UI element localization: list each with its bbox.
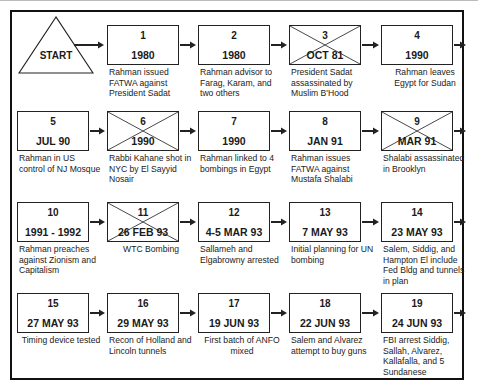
event-box-1: 11980: [107, 25, 179, 65]
event-box-6: 61990: [107, 111, 179, 151]
event-box-12: 124-5 MAR 93: [198, 202, 270, 242]
event-box-18: 1822 JUN 93: [289, 293, 361, 333]
event-number: 2: [199, 30, 269, 41]
arrow-from-18: [362, 309, 379, 317]
event-date: 1980: [199, 49, 269, 61]
arrow-from-3: [362, 41, 379, 49]
event-date: 1990: [199, 135, 269, 147]
event-number: 13: [290, 207, 360, 218]
event-box-19: 1924 JUN 93: [381, 293, 453, 333]
arrow-from-16: [180, 309, 196, 317]
arrow-from-8: [362, 127, 379, 135]
event-description: Rahman preaches against Zionism and Capi…: [19, 244, 103, 276]
event-date: 4-5 MAR 93: [199, 226, 269, 238]
event-number: 5: [18, 116, 88, 127]
event-number: 12: [199, 207, 269, 218]
event-date: 1980: [108, 49, 178, 61]
page-top-rule: [0, 0, 478, 1]
event-description: President Sadat assassinated by Muslim B…: [291, 67, 375, 99]
event-description: Rahman leaves Egypt for Sudan: [383, 67, 467, 88]
event-date: 24 JUN 93: [382, 317, 452, 329]
arrow-from-4: [454, 41, 466, 49]
event-number: 4: [382, 30, 452, 41]
arrow-from-9: [454, 127, 466, 135]
event-description: Salem, Siddig, and Hampton El include Fe…: [383, 244, 467, 286]
event-box-17: 1719 JUN 93: [198, 293, 270, 333]
event-description: Sallameh and Elgabrowny arrested: [200, 244, 284, 265]
event-description: Rabbi Kahane shot in NYC by El Sayyid No…: [109, 153, 193, 185]
event-number: 7: [199, 116, 269, 127]
arrow-from-6: [180, 127, 196, 135]
event-box-3: 3OCT 81: [289, 25, 361, 65]
event-number: 1: [108, 30, 178, 41]
arrow-from-15: [90, 309, 105, 317]
event-date: 26 FEB 93: [108, 226, 178, 238]
arrow-from-7: [271, 127, 287, 135]
event-description: FBI arrest Siddig, Sallah, Alvarez, Kall…: [383, 335, 467, 377]
event-description: Recon of Holland and Lincoln tunnels: [109, 335, 193, 356]
event-number: 3: [290, 30, 360, 41]
event-description: Rahman issues FATWA against Mustafa Shal…: [291, 153, 375, 185]
event-description: Rahman issued FATWA against President Sa…: [109, 67, 193, 99]
event-date: 7 MAY 93: [290, 226, 360, 238]
event-description: WTC Bombing: [109, 244, 193, 255]
start-label: START: [18, 50, 94, 61]
event-date: 19 JUN 93: [199, 317, 269, 329]
event-box-15: 1527 MAY 93: [17, 293, 89, 333]
event-box-16: 1629 MAY 93: [107, 293, 179, 333]
event-box-9: 9MAR 91: [381, 111, 453, 151]
event-number: 8: [290, 116, 360, 127]
event-date: JUL 90: [18, 135, 88, 147]
arrow-from-19: [454, 309, 466, 317]
event-description: First batch of ANFO mixed: [200, 335, 284, 356]
event-number: 19: [382, 298, 452, 309]
event-number: 6: [108, 116, 178, 127]
arrow-from-11: [180, 218, 196, 226]
event-date: 29 MAY 93: [108, 317, 178, 329]
event-date: 23 MAY 93: [382, 226, 452, 238]
event-number: 18: [290, 298, 360, 309]
event-box-5: 5JUL 90: [17, 111, 89, 151]
event-box-13: 137 MAY 93: [289, 202, 361, 242]
event-number: 17: [199, 298, 269, 309]
event-number: 14: [382, 207, 452, 218]
event-number: 16: [108, 298, 178, 309]
event-description: Rahman linked to 4 bombings in Egypt: [200, 153, 284, 174]
event-box-4: 41990: [381, 25, 453, 65]
event-date: JAN 91: [290, 135, 360, 147]
arrow-from-12: [271, 218, 287, 226]
arrow-from-5: [90, 127, 105, 135]
arrow-start-to-1: [74, 41, 104, 49]
event-date: 1990: [108, 135, 178, 147]
arrow-from-1: [180, 41, 196, 49]
event-box-8: 8JAN 91: [289, 111, 361, 151]
event-number: 11: [108, 207, 178, 218]
event-date: 27 MAY 93: [18, 317, 88, 329]
event-date: OCT 81: [290, 49, 360, 61]
arrow-from-14: [454, 218, 466, 226]
event-number: 15: [18, 298, 88, 309]
event-number: 10: [18, 207, 88, 218]
event-date: MAR 91: [382, 135, 452, 147]
arrow-from-2: [271, 41, 287, 49]
event-description: Salem and Alvarez attempt to buy guns: [291, 335, 375, 356]
event-date: 1990: [382, 49, 452, 61]
event-date: 22 JUN 93: [290, 317, 360, 329]
event-box-7: 71990: [198, 111, 270, 151]
event-description: Timing device tested: [19, 335, 103, 346]
event-number: 9: [382, 116, 452, 127]
arrow-from-13: [362, 218, 379, 226]
event-box-14: 1423 MAY 93: [381, 202, 453, 242]
arrow-from-17: [271, 309, 287, 317]
event-date: 1991 - 1992: [18, 226, 88, 238]
event-box-10: 101991 - 1992: [17, 202, 89, 242]
event-box-2: 21980: [198, 25, 270, 65]
event-description: Rahman in US control of NJ Mosque: [19, 153, 103, 174]
event-description: Shalabi assassinated in Brooklyn: [383, 153, 467, 174]
event-box-11: 1126 FEB 93: [107, 202, 179, 242]
event-description: Rahman advisor to Farag, Karam, and two …: [200, 67, 284, 99]
arrow-from-10: [90, 218, 105, 226]
event-description: Initial planning for UN bombing: [291, 244, 375, 265]
